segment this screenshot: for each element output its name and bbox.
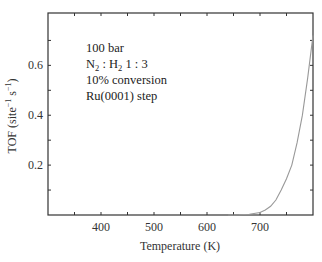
- y-tick-label: 0.4: [28, 108, 43, 122]
- x-tick-label: 400: [92, 220, 110, 234]
- annotation-surface: Ru(0001) step: [86, 89, 157, 103]
- x-tick-label: 500: [145, 220, 163, 234]
- x-axis-label: Temperature (K): [140, 239, 220, 253]
- y-axis-label: TOF (site−1 s−1): [4, 79, 19, 154]
- x-tick-label: 700: [251, 220, 269, 234]
- y-tick-label: 0.6: [28, 58, 43, 72]
- y-tick-label: 0.2: [28, 158, 43, 172]
- annotation-ratio: N2 : H2 1 : 3: [86, 57, 148, 73]
- tof-curve: [228, 35, 313, 215]
- chart-svg: 4005006007000.20.40.6 Temperature (K) TO…: [0, 0, 322, 262]
- annotation-pressure: 100 bar: [86, 41, 125, 55]
- x-tick-label: 600: [198, 220, 216, 234]
- annotation-conversion: 10% conversion: [86, 73, 168, 87]
- annotation-box: 100 bar N2 : H2 1 : 3 10% conversion Ru(…: [86, 41, 168, 103]
